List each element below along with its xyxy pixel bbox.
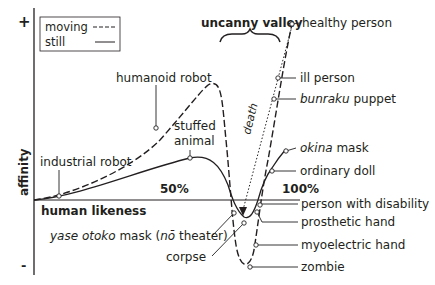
label-stuffed-animal-line1: stuffed <box>174 119 216 133</box>
y-minus-label: - <box>21 258 26 273</box>
label-humanoid-robot: humanoid robot <box>116 71 212 85</box>
label-ill-person: ill person <box>300 71 355 85</box>
y-plus-label: + <box>18 13 31 31</box>
marker-bunraku-puppet <box>272 97 276 101</box>
x-tick-100: 100% <box>282 182 319 196</box>
death-arrowhead <box>239 207 247 216</box>
label-stuffed-animal-line2: animal <box>174 134 215 148</box>
marker-okina-mask <box>284 149 288 153</box>
marker-corpse <box>242 221 246 225</box>
marker-yase-otoko-mask <box>232 211 236 215</box>
marker-humanoid-robot <box>154 126 158 130</box>
marker-ill-person <box>276 76 280 80</box>
marker-myoelectric-hand <box>254 243 258 247</box>
marker-healthy-person <box>290 22 294 26</box>
label-prosthetic-hand: prosthetic hand <box>301 215 395 229</box>
legend-moving-label: moving <box>45 20 88 34</box>
x-axis-label: human likeness <box>41 204 146 218</box>
label-bunraku-puppet: bunraku puppet <box>300 92 396 106</box>
label-zombie: zombie <box>301 260 345 274</box>
label-person-with-disability: person with disability <box>301 197 429 211</box>
uncanny-valley-brace <box>220 29 280 42</box>
label-ordinary-doll: ordinary doll <box>300 164 375 178</box>
label-yase-otoko-mask: yase otoko mask (nō theater) <box>49 229 228 243</box>
label-okina-mask: okina mask <box>300 141 369 155</box>
x-tick-50: 50% <box>160 182 189 196</box>
label-industrial-robot: industrial robot <box>40 155 132 169</box>
marker-prosthetic-hand <box>255 210 259 214</box>
legend-still-label: still <box>45 35 65 49</box>
death-label: death <box>240 102 260 136</box>
label-healthy-person: healthy person <box>302 16 392 30</box>
y-axis-label: affinity <box>17 148 31 196</box>
marker-zombie <box>248 265 252 269</box>
marker-stuffed-animal <box>188 156 192 160</box>
uncanny-valley-chart: + - affinity human likeness 50% 100% mov… <box>0 0 435 285</box>
label-corpse: corpse <box>166 250 206 264</box>
marker-person-with-disability <box>258 203 262 207</box>
marker-ordinary-doll <box>270 169 274 173</box>
label-myoelectric-hand: myoelectric hand <box>301 238 405 252</box>
marker-industrial-robot <box>57 194 61 198</box>
chart-title: uncanny valley <box>201 16 303 30</box>
